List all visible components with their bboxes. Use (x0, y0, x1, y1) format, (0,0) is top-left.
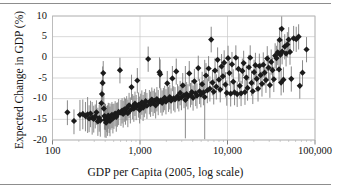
x-axis-title: GDP per Capita (2005, log scale) (0, 166, 331, 178)
y-tick-label: -20 (21, 134, 47, 145)
y-tick-label: 0 (21, 51, 47, 62)
y-tick-label: -5 (21, 72, 47, 83)
y-tick-label: -10 (21, 92, 47, 103)
x-tick-label: 100,000 (285, 145, 337, 156)
x-tick-label: 1,000 (110, 145, 170, 156)
x-tick-label: 100 (23, 145, 83, 156)
y-tick-label: -15 (21, 113, 47, 124)
y-tick-label: 5 (21, 30, 47, 41)
x-tick-label: 10,000 (198, 145, 258, 156)
y-tick-label: 10 (21, 10, 47, 21)
